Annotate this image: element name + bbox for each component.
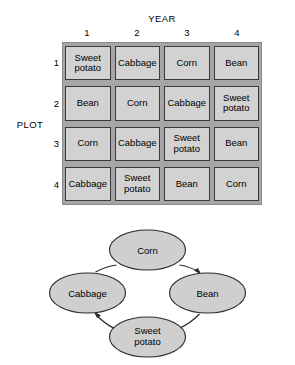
crop-label: Sweet potato [164,127,210,161]
grid-cell: Corn [162,43,212,83]
crop-rotation-table-figure: YEAR PLOT 1 2 3 4 1 2 3 4 Sweet potato C… [0,0,295,215]
grid-cell: Sweet potato [162,124,212,164]
plot-row-label-4: 4 [44,164,60,205]
cabbage-label: Cabbage [68,288,107,299]
crop-label: Sweet potato [214,86,260,120]
cycle-node-sweet-potato[interactable]: Sweet potato [110,317,186,357]
cycle-node-corn[interactable]: Corn [110,230,186,270]
crop-label: Corn [65,127,111,161]
grid-cell: Bean [162,164,212,204]
crop-label: Sweet potato [65,46,111,80]
grid-cell: Sweet potato [63,43,113,83]
year-column-label-4: 4 [212,26,262,39]
grid-cell: Bean [212,43,262,83]
crop-label: Bean [214,127,260,161]
year-column-label-3: 3 [162,26,212,39]
grid-cell: Sweet potato [113,164,163,204]
plot-row-label-2: 2 [44,83,60,124]
corn-label: Corn [137,245,158,256]
year-column-label-1: 1 [62,26,112,39]
grid-cell: Corn [63,124,113,164]
crop-label: Bean [164,167,210,201]
plot-row-label-1: 1 [44,42,60,83]
grid-cell: Bean [212,124,262,164]
year-column-label-2: 2 [112,26,162,39]
plot-row-label-3: 3 [44,124,60,165]
crop-label: Cabbage [65,167,111,201]
crop-label: Corn [164,46,210,80]
grid-cell: Cabbage [63,164,113,204]
arc-cabbage-to-corn [96,265,117,272]
grid-cell: Cabbage [162,83,212,123]
bean-label: Bean [196,288,218,299]
cycle-node-cabbage[interactable]: Cabbage [50,273,126,313]
grid-cell: Corn [212,164,262,204]
cycle-diagram-svg: Corn Bean Sweet potato Cabbage [0,215,295,365]
grid-cell: Sweet potato [212,83,262,123]
plot-row-header-column: 1 2 3 4 [44,42,60,205]
crop-label: Cabbage [164,86,210,120]
grid-cell: Cabbage [113,43,163,83]
crop-label: Bean [214,46,260,80]
crop-label: Corn [115,86,161,120]
crop-label: Cabbage [115,46,161,80]
grid-cell: Bean [63,83,113,123]
crop-label: Sweet potato [115,167,161,201]
cycle-node-group: Corn Bean Sweet potato Cabbage [50,230,246,357]
year-axis-title: YEAR [62,13,262,24]
rotation-grid: Sweet potato Cabbage Corn Bean Bean Corn… [62,42,262,205]
crop-label: Cabbage [115,127,161,161]
year-column-header-row: 1 2 3 4 [62,26,262,39]
sweet-potato-label-line2: potato [134,336,160,347]
crop-label: Bean [65,86,111,120]
rotation-cycle-figure: Corn Bean Sweet potato Cabbage [0,215,295,365]
sweet-potato-label-line1: Sweet [134,325,161,336]
cycle-node-bean[interactable]: Bean [170,273,246,313]
crop-label: Corn [214,167,260,201]
grid-cell: Cabbage [113,124,163,164]
grid-cell: Corn [113,83,163,123]
